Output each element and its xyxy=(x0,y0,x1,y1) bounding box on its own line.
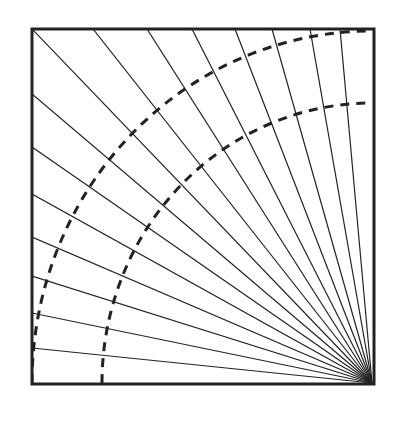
fan-rays xyxy=(32,29,372,383)
radial-fan-diagram xyxy=(0,0,405,421)
ray-top-5 xyxy=(272,29,372,383)
ray-top-1 xyxy=(93,29,372,383)
ray-left-4 xyxy=(32,237,372,383)
ray-top-4 xyxy=(235,29,372,383)
ray-top-2 xyxy=(147,29,372,383)
ray-left-1 xyxy=(32,94,372,383)
ray-left-7 xyxy=(32,348,372,383)
ray-left-3 xyxy=(32,194,372,383)
ray-top-6 xyxy=(310,29,372,383)
